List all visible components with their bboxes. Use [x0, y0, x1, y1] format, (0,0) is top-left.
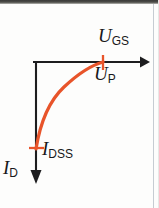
label-ugs-symbol: U: [98, 25, 112, 46]
jfet-transfer-characteristic-figure: UGS UP IDSS ID: [0, 0, 159, 208]
x-axis-arrowhead: [140, 57, 150, 68]
x-tick-label-up: UP: [94, 64, 116, 85]
label-up-subscript: P: [108, 72, 116, 86]
label-idss-subscript: DSS: [48, 147, 73, 161]
x-axis-label-ugs: UGS: [98, 26, 129, 47]
y-axis-arrowhead: [31, 170, 42, 184]
label-ugs-subscript: GS: [112, 34, 129, 48]
label-id-subscript: D: [9, 166, 18, 180]
y-axis-label-id: ID: [3, 158, 18, 179]
label-up-symbol: U: [94, 63, 108, 84]
y-tick-label-idss: IDSS: [42, 139, 73, 160]
transfer-characteristic-curve: [36, 62, 103, 149]
plot-canvas: [0, 0, 159, 208]
